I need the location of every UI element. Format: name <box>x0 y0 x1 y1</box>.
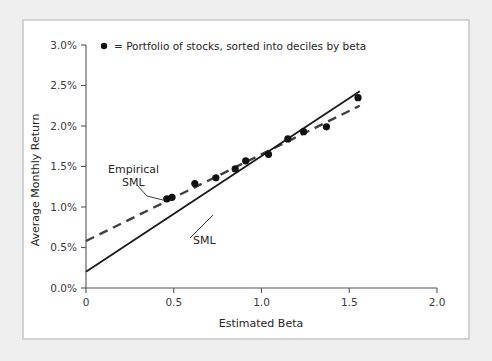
y-tick-label: 1.5% <box>50 160 77 172</box>
x-axis-ticks: 00.51.01.52.0 <box>83 288 446 308</box>
data-point <box>242 157 249 164</box>
data-point <box>212 174 219 181</box>
x-tick-label: 2.0 <box>429 296 446 308</box>
data-point <box>354 94 361 101</box>
scatter-chart: 0.0%0.5%1.0%1.5%2.0%2.5%3.0% 00.51.01.52… <box>0 0 492 361</box>
data-point <box>323 123 330 130</box>
y-tick-label: 2.5% <box>50 79 77 91</box>
y-tick-label: 2.0% <box>50 120 77 132</box>
x-tick-label: 1.0 <box>253 296 270 308</box>
y-tick-label: 1.0% <box>50 201 77 213</box>
figure-root: 0.0%0.5%1.0%1.5%2.0%2.5%3.0% 00.51.01.52… <box>0 0 492 361</box>
y-axis-ticks: 0.0%0.5%1.0%1.5%2.0%2.5%3.0% <box>50 39 86 294</box>
data-point <box>232 165 239 172</box>
data-point <box>265 151 272 158</box>
sml-label: SML <box>193 234 216 247</box>
data-point <box>284 135 291 142</box>
x-tick-label: 0 <box>83 296 90 308</box>
data-point <box>300 128 307 135</box>
x-axis-title: Estimated Beta <box>219 317 303 330</box>
y-tick-label: 3.0% <box>50 39 77 51</box>
y-axis-title: Average Monthly Return <box>29 114 42 247</box>
chart-legend: = Portfolio of stocks, sorted into decil… <box>101 40 366 52</box>
y-tick-label: 0.0% <box>50 282 77 294</box>
empirical-sml-label-line1: Empirical <box>108 163 159 176</box>
x-tick-label: 1.5 <box>341 296 358 308</box>
x-tick-label: 0.5 <box>165 296 182 308</box>
data-point <box>168 194 175 201</box>
filled-circle-marker-icon <box>101 43 107 49</box>
data-point <box>191 180 198 187</box>
y-tick-label: 0.5% <box>50 241 77 253</box>
legend-label: = Portfolio of stocks, sorted into decil… <box>114 40 366 52</box>
empirical-sml-label-line2: SML <box>122 176 145 189</box>
